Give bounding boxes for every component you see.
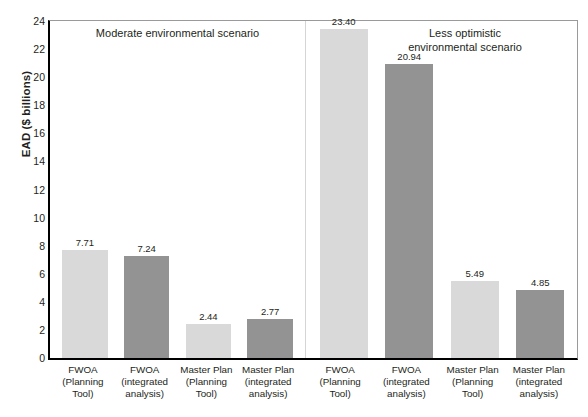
- y-axis-tick-label: 20: [33, 71, 45, 83]
- x-axis-tick-label-line: analysis): [506, 388, 572, 400]
- x-axis-tick-label-line: FWOA: [307, 364, 373, 376]
- x-axis-tick-label-line: (integrated: [373, 376, 439, 388]
- x-axis-tick-label-line: Master Plan: [176, 364, 238, 376]
- x-axis-tick-label: Master Plan(integratedanalysis): [506, 364, 572, 416]
- bar-slot: 7.24: [116, 21, 178, 358]
- x-axis-tick-label-line: analysis): [373, 388, 439, 400]
- bar-value-label: 4.85: [531, 277, 550, 288]
- x-axis-tick-label: FWOA(integratedanalysis): [114, 364, 176, 416]
- bar: 2.77: [247, 319, 293, 358]
- x-axis-tick-label: Master Plan(PlanningTool): [440, 364, 506, 416]
- x-axis-tick-label-line: (integrated: [506, 376, 572, 388]
- bar-slot: 5.49: [442, 21, 508, 358]
- bar-value-label: 2.77: [261, 306, 280, 317]
- bar-value-label: 5.49: [466, 268, 485, 279]
- bar: 20.94: [385, 64, 433, 358]
- x-axis-labels: FWOA(PlanningTool)FWOA(integratedanalysi…: [48, 364, 578, 416]
- x-axis-tick-label: Master Plan(integratedanalysis): [237, 364, 299, 416]
- x-axis-tick-label-line: Master Plan: [237, 364, 299, 376]
- y-axis-tick-label: 8: [39, 240, 45, 252]
- x-axis-tick-label: FWOA(integratedanalysis): [373, 364, 439, 416]
- x-axis-tick-label-line: (Planning: [52, 376, 114, 388]
- bar-slot: 23.40: [311, 21, 377, 358]
- bar-slot: 4.85: [508, 21, 574, 358]
- x-axis-tick-label-line: analysis): [237, 388, 299, 400]
- y-axis-tick-label: 0: [39, 352, 45, 364]
- bar-value-label: 20.94: [397, 51, 421, 62]
- x-axis-tick-label-line: Tool): [52, 388, 114, 400]
- x-axis-tick-label-line: analysis): [114, 388, 176, 400]
- bar: 7.71: [62, 250, 108, 358]
- x-axis-group-moderate: FWOA(PlanningTool)FWOA(integratedanalysi…: [48, 364, 303, 416]
- bars-moderate: 7.717.242.442.77: [50, 21, 305, 358]
- panel-moderate-scenario: Moderate environmental scenario 7.717.24…: [50, 21, 305, 358]
- y-axis-tick-label: 12: [33, 184, 45, 196]
- x-axis-tick-label-line: Tool): [307, 388, 373, 400]
- bar-slot: 20.94: [377, 21, 443, 358]
- y-axis-title: EAD ($ billions): [20, 34, 32, 194]
- y-axis-tick-label: 4: [39, 296, 45, 308]
- x-axis-tick-label-line: FWOA: [52, 364, 114, 376]
- y-axis-tick-label: 6: [39, 268, 45, 280]
- bar-value-label: 23.40: [332, 16, 356, 27]
- x-axis-tick-label-line: Tool): [176, 388, 238, 400]
- y-axis-tick-label: 10: [33, 212, 45, 224]
- y-axis-tick-label: 16: [33, 127, 45, 139]
- panel-divider: [305, 21, 306, 358]
- bar-slot: 7.71: [54, 21, 116, 358]
- bar-value-label: 7.71: [76, 237, 95, 248]
- x-axis-tick-label-line: (Planning: [440, 376, 506, 388]
- plot-area: Moderate environmental scenario 7.717.24…: [48, 20, 578, 360]
- bar: 5.49: [451, 281, 499, 358]
- bar: 2.44: [186, 324, 232, 358]
- y-axis-tick-label: 14: [33, 155, 45, 167]
- x-axis-tick-label-line: (integrated: [114, 376, 176, 388]
- bar-value-label: 2.44: [199, 311, 218, 322]
- bar: 23.40: [320, 29, 368, 358]
- y-axis-tick-label: 18: [33, 99, 45, 111]
- bars-less-optimistic: 23.4020.945.494.85: [307, 21, 577, 358]
- bar-chart-figure: EAD ($ billions) Moderate environmental …: [0, 0, 588, 417]
- x-axis-tick-label-line: (Planning: [307, 376, 373, 388]
- x-axis-tick-label: FWOA(PlanningTool): [52, 364, 114, 416]
- x-axis-tick-label-line: Master Plan: [506, 364, 572, 376]
- x-axis-tick-label-line: (integrated: [237, 376, 299, 388]
- bar-slot: 2.44: [178, 21, 240, 358]
- y-axis-tick-label: 2: [39, 324, 45, 336]
- x-axis-tick-label-line: FWOA: [373, 364, 439, 376]
- x-axis-tick-label-line: (Planning: [176, 376, 238, 388]
- x-axis-tick-label-line: Tool): [440, 388, 506, 400]
- x-axis-tick-label: Master Plan(PlanningTool): [176, 364, 238, 416]
- panel-less-optimistic-scenario: Less optimisticenvironmental scenario 23…: [307, 21, 577, 358]
- bar: 4.85: [516, 290, 564, 358]
- x-axis-tick-label-line: FWOA: [114, 364, 176, 376]
- y-axis-tick-label: 24: [33, 15, 45, 27]
- y-axis-tick-label: 22: [33, 43, 45, 55]
- bar-slot: 2.77: [239, 21, 301, 358]
- x-axis-tick-label-line: Master Plan: [440, 364, 506, 376]
- x-axis-tick-label: FWOA(PlanningTool): [307, 364, 373, 416]
- bar: 7.24: [124, 256, 170, 358]
- bar-value-label: 7.24: [137, 243, 156, 254]
- x-axis-group-less-optimistic: FWOA(PlanningTool)FWOA(integratedanalysi…: [303, 364, 576, 416]
